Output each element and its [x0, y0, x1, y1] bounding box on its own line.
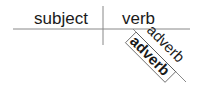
sentence-diagram: subject verb adverb adverb: [0, 0, 201, 93]
verb-word: verb: [122, 9, 155, 28]
subject-word: subject: [34, 9, 88, 28]
